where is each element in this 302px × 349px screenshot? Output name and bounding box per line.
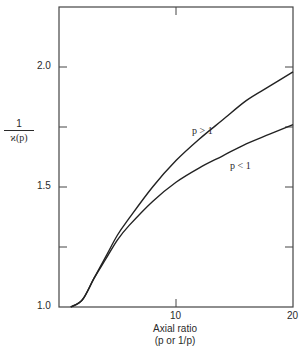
chart-plot-area	[0, 0, 302, 349]
x-axis-label: Axial ratio (p or 1/p)	[130, 323, 220, 347]
annotation-p-less-1: p < 1	[230, 160, 251, 171]
annotation-p-greater-1: p > 1	[192, 125, 213, 136]
y-tick-label: 1.5	[37, 180, 51, 191]
x-axis-label-sub: (p or 1/p)	[130, 335, 220, 347]
y-axis-label-denominator: ϰ(p)	[4, 131, 34, 143]
y-tick-label: 1.0	[37, 300, 51, 311]
curve-p-less-1	[71, 125, 293, 307]
y-axis-label: 1 ϰ(p)	[4, 118, 34, 143]
data-curves	[71, 72, 293, 307]
curve-p-greater-1	[71, 72, 293, 307]
y-axis-label-numerator: 1	[4, 118, 34, 131]
x-axis-label-main: Axial ratio	[130, 323, 220, 335]
axis-ticks	[59, 7, 293, 307]
axes-frame	[59, 7, 293, 307]
x-tick-label: 10	[170, 310, 181, 321]
y-tick-label: 2.0	[37, 60, 51, 71]
x-tick-label: 20	[287, 310, 298, 321]
